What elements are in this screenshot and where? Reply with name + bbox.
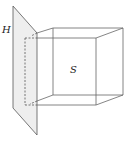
solid-label: S <box>70 64 77 75</box>
plane-cube-diagram: H S <box>0 0 136 144</box>
plane-label: H <box>1 24 11 35</box>
cube-front-edges <box>37 28 123 105</box>
